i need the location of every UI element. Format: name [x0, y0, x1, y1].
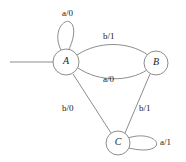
transition-label-a-B-to-A: a/0: [103, 75, 114, 84]
state-diagram-canvas: [0, 0, 186, 162]
state-diagram: A B C a/0 b/1 a/0 b/0 b/1 a/1: [0, 0, 186, 162]
edge-a-loop-on-C: [128, 136, 157, 150]
state-label-B: B: [146, 57, 166, 67]
transition-label-a-loop-on-A: a/0: [62, 9, 73, 18]
edge-a-loop-on-A: [58, 21, 74, 51]
state-label-C: C: [108, 137, 128, 147]
transition-label-b-A-to-B: b/1: [103, 32, 115, 41]
transition-label-a-loop-on-C: a/1: [160, 138, 171, 147]
transition-label-b-A-to-C: b/0: [62, 104, 74, 113]
edge-b-A-to-B: [77, 45, 148, 56]
transition-label-b-B-to-C: b/1: [139, 104, 151, 113]
state-label-A: A: [56, 56, 76, 66]
